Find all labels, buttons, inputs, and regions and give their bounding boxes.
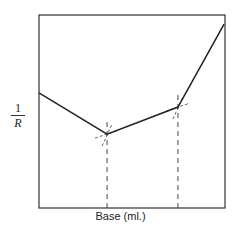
series-line [39, 24, 224, 134]
y-axis-label-denominator: R [8, 117, 28, 129]
y-axis-label-numerator: 1 [8, 102, 28, 114]
plot-frame [39, 15, 225, 208]
chart [0, 0, 241, 233]
x-axis-label: Base (ml.) [0, 210, 241, 222]
y-axis-label: 1 R [8, 102, 28, 129]
